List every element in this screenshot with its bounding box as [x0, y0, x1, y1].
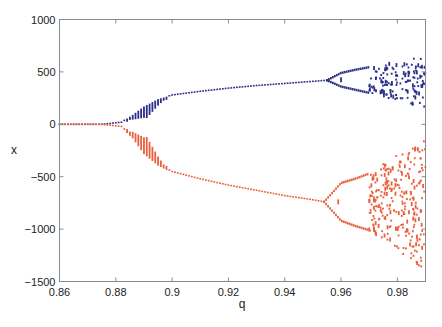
data-point — [359, 226, 361, 228]
data-point — [345, 180, 347, 182]
data-point — [384, 234, 386, 238]
data-point — [381, 236, 383, 238]
data-point — [413, 209, 415, 211]
data-point-band — [135, 113, 137, 119]
data-point — [330, 77, 332, 79]
data-point — [419, 151, 421, 153]
data-point — [228, 184, 230, 186]
data-point — [367, 91, 369, 93]
data-point — [411, 236, 413, 238]
data-point — [421, 230, 423, 232]
data-point — [233, 185, 235, 187]
data-point — [407, 156, 409, 160]
data-point — [292, 82, 294, 84]
data-point — [414, 157, 416, 159]
data-point — [416, 81, 418, 83]
data-point — [242, 187, 244, 189]
data-point — [363, 174, 365, 176]
data-point — [413, 58, 415, 60]
data-point — [328, 80, 330, 82]
data-point — [306, 81, 308, 83]
upper-branch-series — [59, 58, 427, 125]
data-point-band — [146, 137, 148, 156]
data-point — [391, 81, 393, 85]
data-point — [422, 169, 424, 171]
data-point — [405, 190, 407, 194]
data-point — [401, 191, 403, 193]
data-point — [118, 122, 120, 124]
data-point-band — [137, 135, 139, 147]
data-point — [384, 84, 386, 86]
data-point — [418, 244, 420, 246]
data-point-band — [132, 132, 134, 139]
data-point — [284, 83, 286, 85]
data-point — [383, 167, 385, 169]
data-point — [404, 206, 406, 208]
data-point — [389, 205, 391, 207]
data-point — [370, 183, 372, 187]
data-point — [309, 199, 311, 201]
data-point — [213, 89, 215, 91]
data-point — [416, 261, 418, 265]
data-point — [337, 216, 339, 218]
data-point — [399, 164, 401, 166]
data-point — [177, 172, 179, 174]
data-point — [369, 84, 371, 86]
data-point — [415, 242, 417, 246]
data-point — [95, 124, 97, 126]
data-point — [390, 93, 392, 97]
data-point — [412, 246, 414, 248]
data-point — [320, 80, 322, 82]
data-point — [414, 77, 416, 79]
data-point — [295, 82, 297, 84]
data-point — [370, 209, 372, 211]
data-point — [365, 174, 367, 176]
data-point — [78, 124, 80, 126]
data-point — [408, 66, 410, 68]
data-point — [369, 212, 371, 214]
data-point — [332, 76, 334, 78]
data-point — [304, 81, 306, 83]
data-point — [386, 214, 388, 216]
data-point — [67, 124, 69, 126]
data-point — [402, 154, 404, 156]
y-axis: 10005000−500−1000−1500 — [25, 14, 426, 288]
data-point-band — [143, 106, 145, 117]
data-point — [388, 168, 390, 170]
data-point — [391, 181, 393, 185]
data-point — [394, 98, 396, 100]
data-point — [327, 196, 329, 198]
data-point — [298, 197, 300, 199]
data-point — [417, 207, 419, 209]
data-point — [362, 67, 364, 69]
data-point — [273, 83, 275, 85]
data-point — [118, 125, 120, 127]
x-tick-label: 0.96 — [330, 286, 351, 298]
data-point — [416, 185, 418, 187]
data-point — [386, 73, 388, 75]
data-point — [373, 218, 375, 220]
data-point — [244, 86, 246, 88]
data-point — [412, 148, 414, 150]
data-point — [376, 189, 378, 191]
data-point — [258, 85, 260, 87]
data-point — [381, 230, 383, 232]
data-point — [395, 192, 397, 196]
data-point — [412, 217, 414, 221]
data-point — [394, 245, 396, 247]
data-point-band — [135, 133, 137, 142]
y-tick-label: 1000 — [31, 14, 55, 26]
data-point — [315, 199, 317, 201]
data-point — [253, 85, 255, 87]
data-point — [180, 173, 182, 175]
data-point — [267, 192, 269, 194]
data-point — [225, 184, 227, 186]
data-point — [121, 121, 123, 123]
data-point-band — [152, 102, 154, 112]
data-point — [404, 208, 406, 210]
data-point — [354, 69, 356, 71]
data-point — [334, 83, 336, 85]
data-point — [216, 182, 218, 184]
data-point — [236, 87, 238, 89]
data-point — [416, 214, 418, 216]
